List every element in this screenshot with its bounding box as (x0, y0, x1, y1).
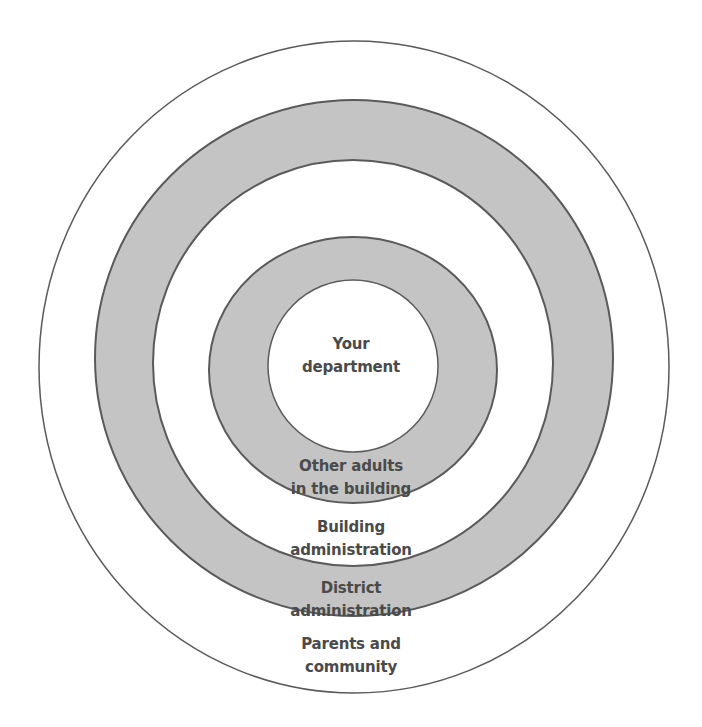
label-line: Other adults (0, 455, 702, 478)
label-building-administration: Building administration (0, 516, 702, 562)
label-line: community (0, 656, 702, 679)
label-line: in the building (0, 478, 702, 501)
label-line: administration (0, 600, 702, 623)
label-line: District (0, 577, 702, 600)
label-line: Parents and (0, 633, 702, 656)
label-line: department (0, 356, 702, 379)
label-line: Your (0, 333, 702, 356)
label-your-department: Your department (0, 333, 702, 379)
label-other-adults: Other adults in the building (0, 455, 702, 501)
label-line: Building (0, 516, 702, 539)
label-parents-community: Parents and community (0, 633, 702, 679)
label-district-administration: District administration (0, 577, 702, 623)
label-line: administration (0, 539, 702, 562)
